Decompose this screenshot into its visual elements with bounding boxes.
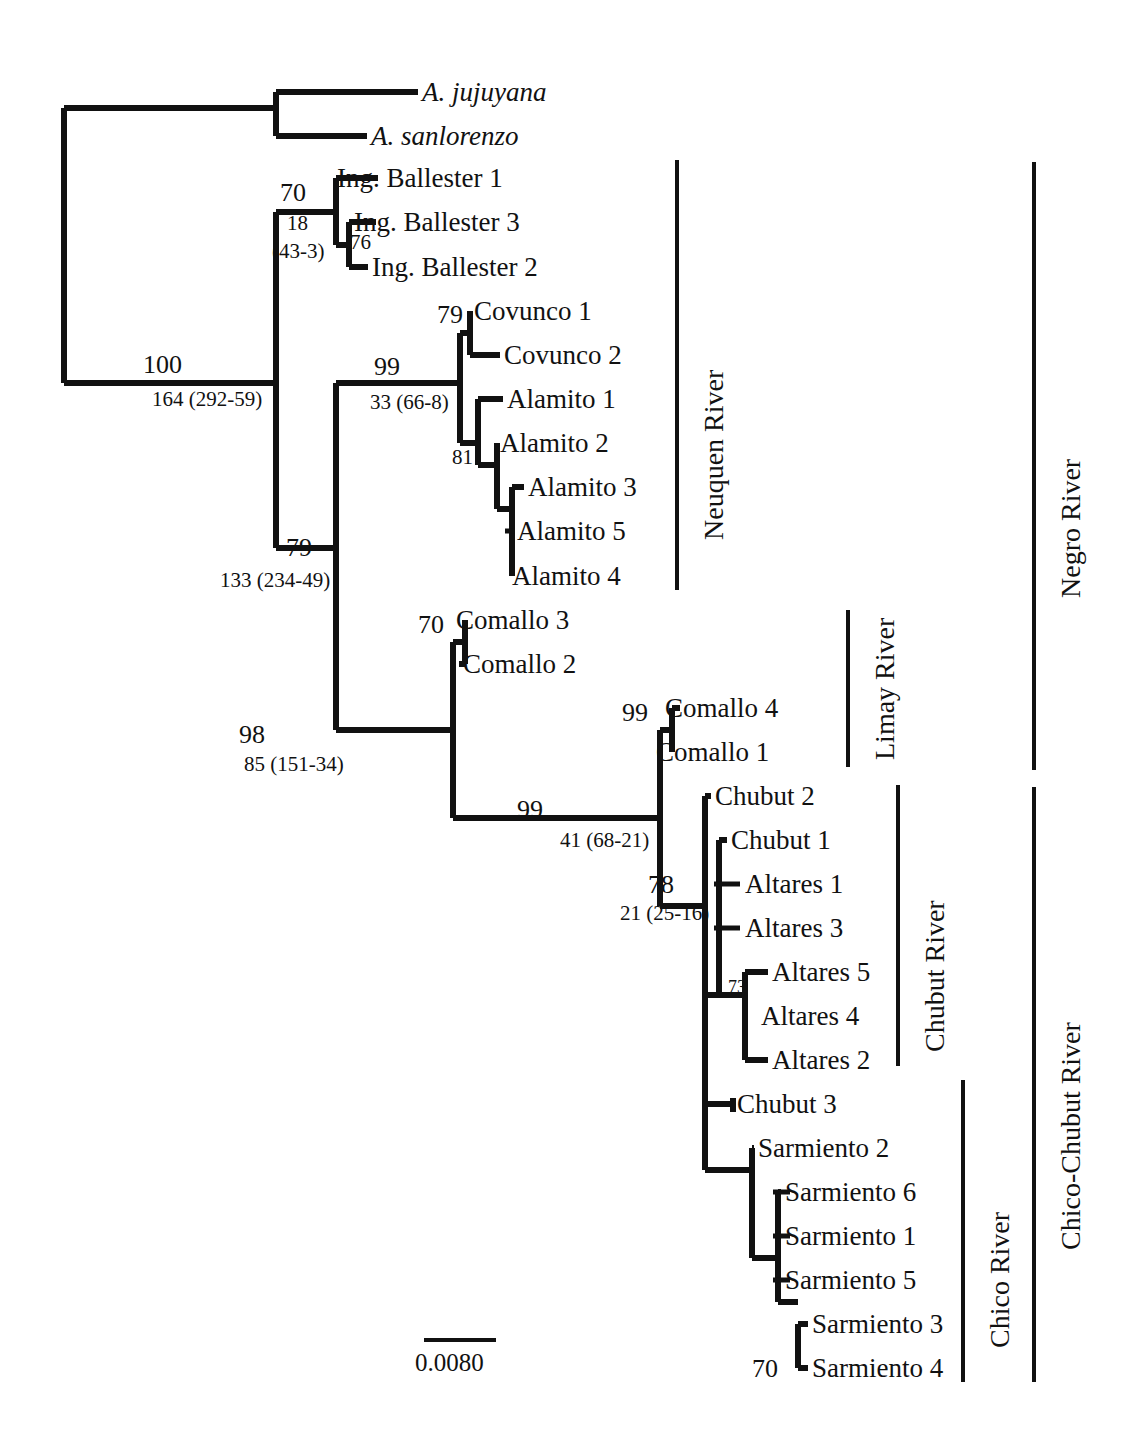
- tip-label-comallo-4: Comallo 4: [665, 695, 778, 722]
- tip-label-chubut-3: Chubut 3: [737, 1091, 837, 1118]
- tip-label-altares-1: Altares 1: [745, 871, 843, 898]
- group-label-negro-river: Negro River: [1057, 459, 1085, 598]
- tip-label-altares-3: Altares 3: [745, 915, 843, 942]
- tip-label-sarmiento-4: Sarmiento 4: [812, 1355, 943, 1382]
- support-value-73-altares: 73: [728, 978, 746, 996]
- tip-label-sarmiento-3: Sarmiento 3: [812, 1311, 943, 1338]
- tip-label-a-jujuyana: A. jujuyana: [422, 79, 546, 106]
- tip-label-altares-2: Altares 2: [772, 1047, 870, 1074]
- support-value-98-clade: 98: [239, 722, 265, 748]
- tip-label-sarmiento-6: Sarmiento 6: [785, 1179, 916, 1206]
- tip-label-chubut-2: Chubut 2: [715, 783, 815, 810]
- group-label-chubut-river: Chubut River: [921, 900, 949, 1052]
- tip-label-chubut-1: Chubut 1: [731, 827, 831, 854]
- tip-label-ing-ballester-2: Ing. Ballester 2: [372, 254, 538, 281]
- divergence-range-85: 85 (151-34): [244, 754, 344, 775]
- tip-label-ing-ballester-1: Ing. Ballester 1: [337, 165, 503, 192]
- tip-label-sarmiento-2: Sarmiento 2: [758, 1135, 889, 1162]
- group-label-limay-river: Limay River: [871, 618, 899, 760]
- support-value-78-chubut: 78: [648, 872, 674, 898]
- support-value-79-clade: 79: [286, 535, 312, 561]
- support-value-76-ballester: 76: [350, 232, 371, 253]
- tip-label-covunco-1: Covunco 1: [474, 298, 592, 325]
- tip-label-a-sanlorenzo: A. sanlorenzo: [371, 123, 519, 150]
- divergence-range-21: 21 (25-16): [620, 903, 709, 924]
- support-value-18-ballester: 18: [287, 213, 308, 234]
- tip-label-comallo-1: Comallo 1: [656, 739, 769, 766]
- support-value-70-sarmiento: 70: [752, 1356, 778, 1382]
- scale-bar-label: 0.0080: [415, 1350, 484, 1375]
- phylogenetic-tree-figure: A. jujuyana A. sanlorenzo Ing. Ballester…: [0, 0, 1134, 1447]
- tip-label-sarmiento-5: Sarmiento 5: [785, 1267, 916, 1294]
- tip-label-covunco-2: Covunco 2: [504, 342, 622, 369]
- tip-label-alamito-1: Alamito 1: [507, 386, 616, 413]
- tip-label-comallo-2: Comallo 2: [463, 651, 576, 678]
- support-value-79-covunco: 79: [437, 302, 463, 328]
- divergence-range-43: (43-3): [272, 241, 324, 262]
- support-value-100-root: 100: [143, 352, 182, 378]
- tree-branches: [0, 0, 1134, 1447]
- divergence-range-164: 164 (292-59): [152, 389, 262, 410]
- support-value-99-neuquen: 99: [374, 354, 400, 380]
- group-label-chico-river: Chico River: [986, 1212, 1014, 1348]
- tip-label-sarmiento-1: Sarmiento 1: [785, 1223, 916, 1250]
- tip-label-comallo-3: Comallo 3: [456, 607, 569, 634]
- support-value-70-ballester: 70: [280, 180, 306, 206]
- divergence-range-41: 41 (68-21): [560, 830, 649, 851]
- support-value-99-comallo: 99: [622, 700, 648, 726]
- support-value-81-alamito: 81: [452, 447, 473, 468]
- tip-label-alamito-2: Alamito 2: [500, 430, 609, 457]
- tip-label-alamito-4: Alamito 4: [512, 563, 621, 590]
- divergence-range-133: 133 (234-49): [220, 570, 330, 591]
- support-value-99-chicochubut: 99: [517, 797, 543, 823]
- tip-label-ing-ballester-3: Ing. Ballester 3: [354, 209, 520, 236]
- tip-label-alamito-3: Alamito 3: [528, 474, 637, 501]
- tip-label-alamito-5: Alamito 5: [517, 518, 626, 545]
- divergence-range-33: 33 (66-8): [370, 392, 449, 413]
- tip-label-altares-5: Altares 5: [772, 959, 870, 986]
- group-label-neuquen-river: Neuquen River: [700, 370, 728, 540]
- group-label-chico-chubut-river: Chico-Chubut River: [1057, 1022, 1085, 1250]
- support-value-70-comallo: 70: [418, 612, 444, 638]
- tip-label-altares-4: Altares 4: [761, 1003, 859, 1030]
